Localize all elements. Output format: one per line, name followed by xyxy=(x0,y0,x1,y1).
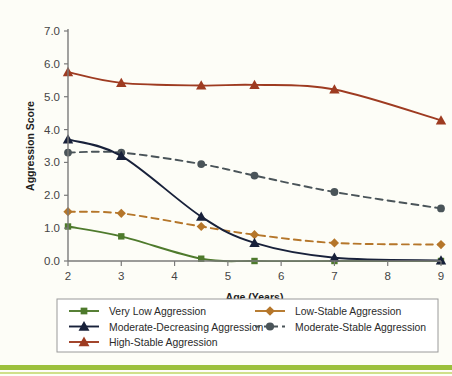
series-line xyxy=(68,152,441,209)
y-tick-label: 6.0 xyxy=(44,58,60,70)
chart-legend: Very Low AggressionModerate-Decreasing A… xyxy=(57,299,438,352)
y-tick-label: 4.0 xyxy=(44,124,60,136)
y-tick-label: 1.0 xyxy=(44,222,60,234)
decorative-band-light xyxy=(0,372,452,374)
data-point-circle xyxy=(251,172,259,180)
data-point-circle xyxy=(266,322,274,330)
x-tick-label: 3 xyxy=(118,270,124,282)
series-2 xyxy=(63,134,446,264)
x-tick-label: 2 xyxy=(65,270,71,282)
x-tick-label: 8 xyxy=(385,270,391,282)
legend-item-label: High-Stable Aggression xyxy=(109,337,218,348)
axes: 0.01.02.03.04.05.06.07.023456789Age (Yea… xyxy=(24,25,444,303)
legend-item-label: Moderate-Decreasing Aggression xyxy=(109,322,263,333)
x-tick-label: 9 xyxy=(438,270,444,282)
y-tick-label: 2.0 xyxy=(44,189,60,201)
decorative-band xyxy=(0,365,452,370)
legend-item-label: Moderate-Stable Aggression xyxy=(295,322,426,333)
data-point-circle xyxy=(331,188,339,196)
data-point-diamond xyxy=(117,209,126,218)
x-tick-label: 7 xyxy=(331,270,337,282)
plot-area xyxy=(63,67,446,265)
data-point-triangle xyxy=(196,211,206,220)
legend-item-label: Very Low Aggression xyxy=(109,306,206,317)
chart-canvas: 0.01.02.03.04.05.06.07.023456789Age (Yea… xyxy=(0,0,452,376)
x-tick-label: 6 xyxy=(278,270,284,282)
x-tick-label: 5 xyxy=(225,270,231,282)
series-line xyxy=(68,72,441,120)
data-point-diamond xyxy=(197,222,206,231)
y-tick-label: 5.0 xyxy=(44,91,60,103)
data-point-circle xyxy=(197,160,205,168)
chart-figure: 0.01.02.03.04.05.06.07.023456789Age (Yea… xyxy=(0,0,452,376)
data-point-diamond xyxy=(436,240,445,249)
y-tick-label: 0.0 xyxy=(44,255,60,267)
legend-item-label: Low-Stable Aggression xyxy=(295,306,402,317)
x-tick-label: 4 xyxy=(171,270,178,282)
data-point-circle xyxy=(437,205,445,213)
data-point-square xyxy=(81,308,88,315)
series-4 xyxy=(63,67,446,125)
y-axis-title: Aggression Score xyxy=(24,101,36,191)
y-tick-label: 3.0 xyxy=(44,156,60,168)
data-point-diamond xyxy=(330,238,339,247)
y-tick-label: 7.0 xyxy=(44,25,60,37)
data-point-square xyxy=(118,233,124,239)
